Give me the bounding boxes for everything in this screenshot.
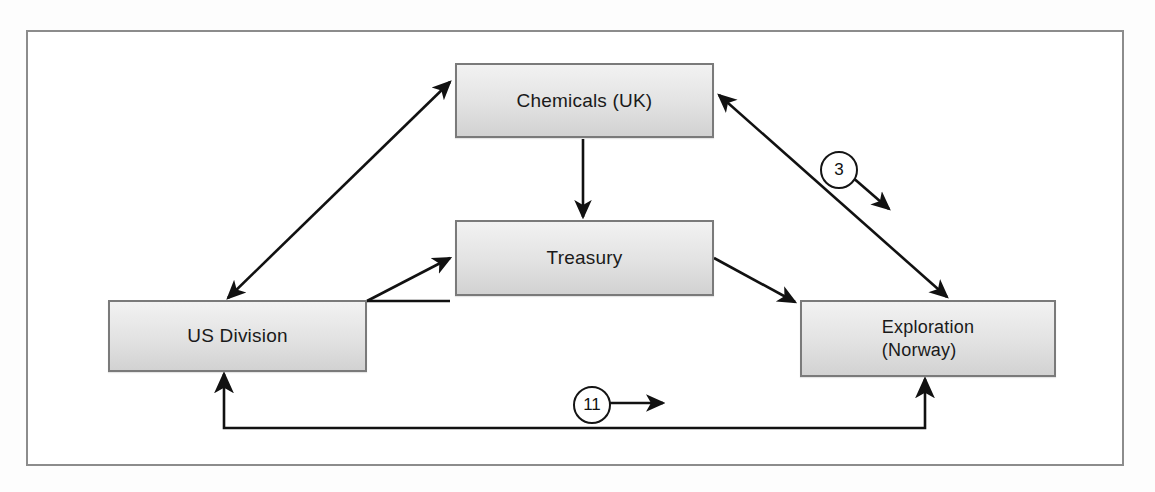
edge-badge-11[interactable]: 11: [573, 386, 611, 424]
node-exploration-norway[interactable]: Exploration (Norway): [800, 300, 1056, 377]
node-chemicals-uk[interactable]: Chemicals (UK): [455, 63, 714, 138]
badge-3-direction-arrow: [851, 176, 889, 209]
node-treasury-label: Treasury: [547, 246, 623, 270]
node-us-division[interactable]: US Division: [108, 300, 367, 372]
edge-badge-3-value: 3: [834, 160, 843, 180]
node-us-division-label: US Division: [187, 324, 287, 348]
edge-badge-11-value: 11: [583, 395, 601, 415]
diagram-canvas: Chemicals (UK) Treasury US Division Expl…: [0, 0, 1155, 492]
node-treasury[interactable]: Treasury: [455, 220, 714, 296]
edge-usdivision-chemicals: [228, 82, 450, 298]
edge-chemicals-exploration: [719, 95, 947, 297]
node-exploration-norway-label: Exploration (Norway): [882, 316, 974, 361]
edge-usdivision-treasury-arrow: [367, 258, 450, 301]
edge-badge-3[interactable]: 3: [820, 151, 858, 189]
node-chemicals-uk-label: Chemicals (UK): [517, 89, 653, 113]
edge-treasury-exploration: [714, 258, 795, 302]
